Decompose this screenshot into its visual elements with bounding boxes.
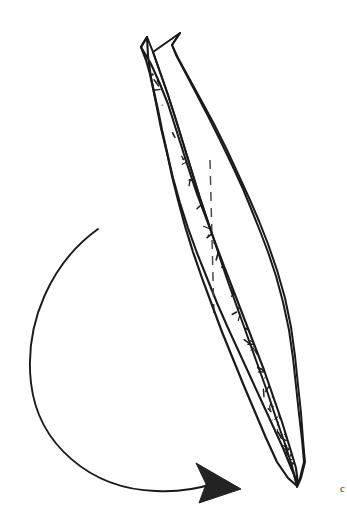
stipple-dot: [162, 105, 163, 106]
line-drawing-figure: c: [0, 0, 347, 532]
stipple-dash: [284, 458, 286, 460]
stipple-dot: [154, 68, 156, 70]
stipple-dash: [263, 389, 264, 396]
stipple-dash: [154, 89, 160, 90]
stipple-dot: [157, 70, 158, 71]
figure-canvas: c: [0, 0, 347, 532]
stipple-dash: [270, 406, 271, 410]
stipple-dot: [264, 377, 265, 378]
rotation-arrowhead: [196, 463, 241, 503]
stipple-dot: [272, 419, 273, 420]
stipple-dot: [284, 434, 286, 436]
rotation-arc: [30, 229, 212, 491]
caption-fragment: c: [340, 482, 345, 494]
